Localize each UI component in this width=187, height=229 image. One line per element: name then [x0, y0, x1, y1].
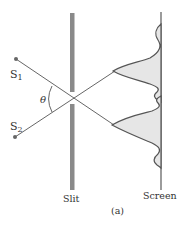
slit-barrier-lower [70, 104, 75, 190]
source-s2-dot [13, 135, 17, 139]
label-source2: S2 [10, 120, 23, 134]
double-source-diffraction-diagram: S1 S2 θ Slit Screen (a) [0, 0, 187, 229]
ray-s2 [15, 71, 115, 137]
angle-theta-arc [49, 86, 52, 112]
label-source1: S1 [10, 68, 23, 82]
lower-diffraction-pattern [112, 96, 161, 168]
figure-caption: (a) [111, 205, 124, 216]
source-s1-dot [14, 57, 18, 61]
slit-barrier-upper [70, 13, 75, 92]
label-slit: Slit [63, 193, 80, 204]
label-screen: Screen [143, 190, 177, 201]
upper-diffraction-pattern [113, 24, 161, 103]
ray-s1 [16, 59, 114, 125]
label-angle-theta: θ [40, 94, 46, 105]
